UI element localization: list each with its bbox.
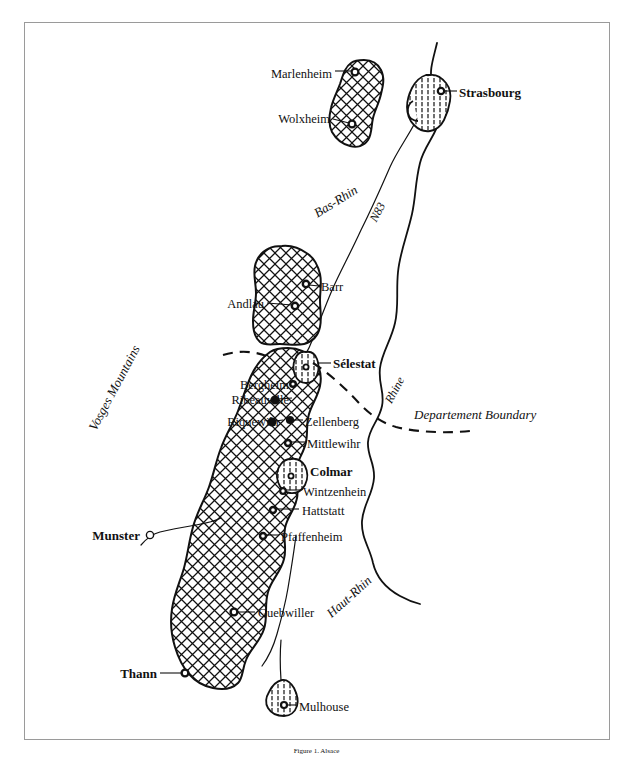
marker-munster <box>146 531 153 538</box>
marker-bergheim <box>290 381 296 387</box>
marker-mulhouse <box>281 702 287 708</box>
marker-selestat <box>303 364 308 369</box>
place-label-wolxheim: Wolxheim <box>278 112 330 126</box>
place-label-ribeauville: Ribeauville <box>231 393 289 407</box>
marker-mittlewihr <box>285 440 291 446</box>
place-label-strasbourg: Strasbourg <box>459 85 522 100</box>
place-label-guebwiller: Guebwiller <box>258 606 315 620</box>
place-label-colmar: Colmar <box>310 464 353 479</box>
place-label-selestat: Sélestat <box>333 356 376 371</box>
place-label-mulhouse: Mulhouse <box>299 700 349 714</box>
place-label-munster: Munster <box>92 528 140 543</box>
place-label-mittlewihr: Mittlewihr <box>307 437 361 451</box>
marker-guebwiller <box>231 609 238 616</box>
place-label-barr: Barr <box>321 280 344 294</box>
map-figure: Marlenheim Wolxheim Strasbourg Barr Andl… <box>0 0 633 763</box>
region-label-bas-rhin: Bas-Rhin <box>311 182 360 220</box>
marker-colmar <box>288 473 293 478</box>
marker-zellenberg <box>287 417 293 423</box>
place-label-zellenberg: Zellenberg <box>305 415 360 429</box>
marker-wintzenhein <box>280 488 286 494</box>
region-label-haut-rhin: Haut-Rhin <box>323 573 375 622</box>
place-label-hattstatt: Hattstatt <box>302 504 345 518</box>
place-label-wintzenhein: Wintzenhein <box>303 485 367 499</box>
feature-label-rhine: Rhine <box>381 374 407 407</box>
vineyard-area-barr <box>253 246 321 345</box>
marker-hattstatt <box>270 507 276 513</box>
marker-pfaffenheim <box>260 533 266 539</box>
figure-caption: Figure 1. Alsace <box>0 747 633 755</box>
place-label-andlau: Andlau <box>227 297 265 311</box>
marker-andlau <box>292 303 298 309</box>
marker-barr <box>303 281 309 287</box>
marker-strasbourg <box>438 88 444 94</box>
alsace-map-canvas: Marlenheim Wolxheim Strasbourg Barr Andl… <box>0 0 633 763</box>
place-label-pfaffenheim: Pfaffenheim <box>281 530 343 544</box>
marker-thann <box>182 670 189 677</box>
place-label-marlenheim: Marlenheim <box>271 67 332 81</box>
place-label-thann: Thann <box>120 666 158 681</box>
place-label-riquewihr: Riquewihr <box>227 415 281 429</box>
marker-wolxheim <box>349 121 356 128</box>
place-label-bergheim: Bergheim <box>240 378 289 392</box>
region-label-vosges-mountains: Vosges Mountains <box>85 343 142 433</box>
figure-caption-wrap: Figure 1. Alsace <box>0 747 633 755</box>
marker-marlenheim <box>352 69 359 76</box>
urban-area-strasbourg <box>407 75 450 131</box>
feature-label-n83: N83 <box>366 200 388 225</box>
feature-label-departement-boundary: Departement Boundary <box>413 407 537 422</box>
